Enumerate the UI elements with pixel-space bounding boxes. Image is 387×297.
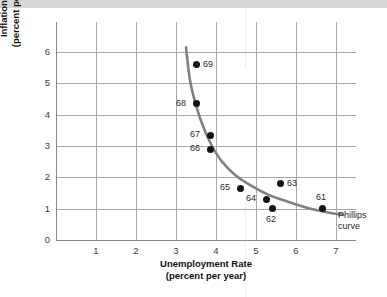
x-tick-label-3: 3 xyxy=(166,245,186,256)
data-point-66 xyxy=(207,146,214,153)
x-tick-label-6: 6 xyxy=(286,245,306,256)
data-point-68 xyxy=(193,100,200,107)
y-axis-title-line1: Inflation Rate xyxy=(0,0,10,72)
data-point-69 xyxy=(193,61,200,68)
data-point-61 xyxy=(319,205,326,212)
data-point-label-61: 61 xyxy=(316,192,326,202)
x-axis-line xyxy=(56,240,356,241)
y-tick-label-3: 3 xyxy=(32,140,50,151)
data-point-64 xyxy=(263,196,270,203)
data-point-label-65: 65 xyxy=(220,182,230,192)
y-tick-label-0: 0 xyxy=(32,234,50,245)
y-tick-label-6: 6 xyxy=(32,46,50,57)
x-tick-label-1: 1 xyxy=(86,245,106,256)
x-axis-title: Unemployment Rate (percent per year) xyxy=(56,258,356,282)
x-tick-label-2: 2 xyxy=(126,245,146,256)
x-tick-label-4: 4 xyxy=(206,245,226,256)
plot-area: 696867666564636261 Phillipscurve xyxy=(56,22,356,240)
data-point-63 xyxy=(277,180,284,187)
data-point-label-68: 68 xyxy=(176,98,186,108)
data-point-67 xyxy=(207,132,214,139)
data-point-label-66: 66 xyxy=(190,143,200,153)
y-tick-label-5: 5 xyxy=(32,77,50,88)
phillips-curve-label: Phillipscurve xyxy=(338,210,367,232)
data-point-label-64: 64 xyxy=(246,193,256,203)
data-point-62 xyxy=(269,205,276,212)
x-axis-title-line2: (percent per year) xyxy=(56,270,356,282)
y-tick-label-2: 2 xyxy=(32,171,50,182)
data-point-label-63: 63 xyxy=(287,178,297,188)
phillips-curve-chart: Inflation Rate (percent per year) Unempl… xyxy=(0,0,387,297)
y-tick-label-4: 4 xyxy=(32,109,50,120)
x-axis-title-line1: Unemployment Rate xyxy=(56,258,356,270)
y-tick-label-1: 1 xyxy=(32,203,50,214)
x-tick-label-5: 5 xyxy=(246,245,266,256)
phillips-curve-label-line1: Phillips xyxy=(338,210,367,221)
data-point-65 xyxy=(237,185,244,192)
data-point-label-69: 69 xyxy=(203,59,213,69)
y-axis-title: Inflation Rate (percent per year) xyxy=(0,0,22,72)
phillips-curve-label-line2: curve xyxy=(338,221,367,232)
phillips-curve-line xyxy=(56,22,356,240)
x-tick-label-7: 7 xyxy=(326,245,346,256)
data-point-label-67: 67 xyxy=(190,129,200,139)
y-axis-title-line2: (percent per year) xyxy=(10,0,22,72)
data-point-label-62: 62 xyxy=(266,214,276,224)
